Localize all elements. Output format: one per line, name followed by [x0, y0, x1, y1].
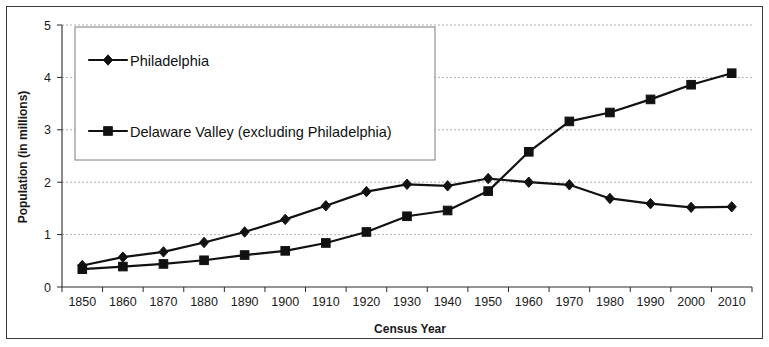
- data-point-2-1910: [322, 239, 331, 248]
- x-tick-label-1950: 1950: [474, 295, 502, 309]
- legend-box: [75, 27, 435, 160]
- legend-marker-square-icon: [104, 127, 113, 136]
- legend-label-2: Delaware Valley (excluding Philadelphia): [130, 124, 392, 140]
- data-point-2-2010: [727, 69, 736, 78]
- data-point-2-1920: [362, 228, 371, 237]
- data-point-2-1960: [524, 148, 533, 157]
- data-point-2-1990: [646, 95, 655, 104]
- plot-area-wrapper: 012345 185018601870188018901900191019201…: [0, 0, 769, 347]
- x-tick-label-1930: 1930: [393, 295, 421, 309]
- x-tick-label-1990: 1990: [637, 295, 665, 309]
- data-point-2-1880: [200, 256, 209, 265]
- data-point-2-1890: [240, 251, 249, 260]
- x-tick-label-1960: 1960: [515, 295, 543, 309]
- data-point-1-1990: [646, 198, 655, 208]
- x-tick-label-1870: 1870: [150, 295, 178, 309]
- data-point-2-1950: [484, 187, 493, 196]
- data-point-1-1870: [159, 247, 168, 257]
- series-1: [78, 173, 737, 270]
- x-tick-label-1860: 1860: [109, 295, 137, 309]
- x-tick-label-1920: 1920: [353, 295, 381, 309]
- y-tick-label-1: 1: [44, 228, 51, 242]
- x-tick-label-1970: 1970: [555, 295, 583, 309]
- data-point-2-1970: [565, 117, 574, 126]
- x-tick-label-1910: 1910: [312, 295, 340, 309]
- data-point-2-1900: [281, 247, 290, 256]
- data-point-1-1920: [362, 186, 371, 196]
- data-point-2-1870: [159, 260, 168, 269]
- y-tick-label-2: 2: [44, 176, 51, 190]
- data-point-2-1850: [78, 265, 87, 274]
- series-line-1: [82, 179, 731, 266]
- data-point-2-1860: [119, 262, 128, 271]
- y-tick-labels-group: 012345: [44, 19, 51, 295]
- data-point-1-1960: [524, 177, 533, 187]
- x-tick-label-2000: 2000: [677, 295, 705, 309]
- legend-label-1: Philadelphia: [130, 53, 210, 69]
- data-point-2-1930: [403, 212, 412, 221]
- data-point-1-2010: [727, 202, 736, 212]
- chart-figure: 012345 185018601870188018901900191019201…: [0, 0, 769, 347]
- data-point-2-1940: [443, 206, 452, 215]
- x-tick-label-1850: 1850: [68, 295, 96, 309]
- data-point-1-1880: [199, 237, 208, 247]
- x-tick-label-2010: 2010: [718, 295, 746, 309]
- data-point-1-1910: [321, 201, 330, 211]
- y-tick-label-0: 0: [44, 281, 51, 295]
- data-point-1-2000: [687, 202, 696, 212]
- x-tick-label-1980: 1980: [596, 295, 624, 309]
- y-tick-label-3: 3: [44, 123, 51, 137]
- x-tick-label-1890: 1890: [231, 295, 259, 309]
- population-line-chart: 012345 185018601870188018901900191019201…: [0, 0, 769, 347]
- x-tick-label-1940: 1940: [434, 295, 462, 309]
- x-tick-labels-group: 1850186018701880189019001910192019301940…: [68, 295, 745, 309]
- data-point-1-1860: [118, 252, 127, 262]
- data-point-1-1970: [565, 180, 574, 190]
- y-axis-title: Population (in millions): [16, 91, 30, 224]
- x-tick-label-1900: 1900: [271, 295, 299, 309]
- x-axis-title: Census Year: [374, 322, 446, 336]
- x-tick-label-1880: 1880: [190, 295, 218, 309]
- x-tick-marks-group: [62, 287, 752, 292]
- y-tick-label-5: 5: [44, 19, 51, 33]
- data-point-2-1980: [606, 108, 615, 117]
- data-point-2-2000: [687, 80, 696, 89]
- data-point-1-1980: [605, 193, 614, 203]
- data-point-1-1930: [402, 179, 411, 189]
- data-point-1-1890: [240, 227, 249, 237]
- chart-legend: PhiladelphiaDelaware Valley (excluding P…: [75, 27, 435, 160]
- y-tick-label-4: 4: [44, 71, 51, 85]
- data-point-1-1900: [281, 214, 290, 224]
